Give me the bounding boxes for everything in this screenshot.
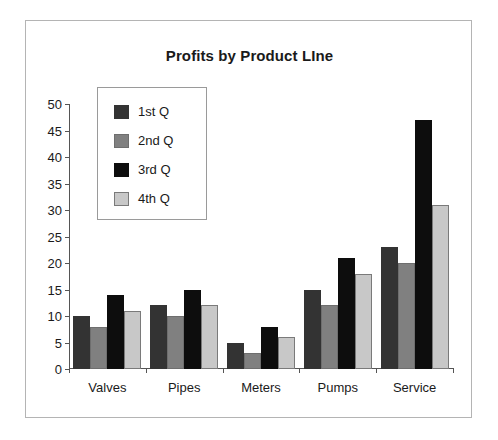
y-tick-label: 15 [48, 282, 62, 297]
bar-group: Service [376, 104, 453, 369]
bar[interactable] [261, 327, 278, 369]
bar[interactable] [167, 316, 184, 369]
bar[interactable] [124, 311, 141, 369]
x-category-label: Pipes [146, 380, 223, 395]
bar-group-bars [376, 104, 453, 369]
x-category-label: Meters [223, 380, 300, 395]
bar[interactable] [227, 343, 244, 370]
legend-swatch-icon [114, 192, 129, 206]
legend-item[interactable]: 1st Q [114, 97, 206, 126]
legend-label: 1st Q [138, 104, 169, 119]
x-category-label: Valves [69, 380, 146, 395]
legend-item[interactable]: 4th Q [114, 184, 206, 213]
legend-item[interactable]: 3rd Q [114, 155, 206, 184]
y-tick-label: 30 [48, 203, 62, 218]
bar[interactable] [321, 305, 338, 369]
y-tick-label: 35 [48, 176, 62, 191]
bar[interactable] [381, 247, 398, 369]
bar[interactable] [201, 305, 218, 369]
bar[interactable] [184, 290, 201, 370]
y-tick-label: 20 [48, 256, 62, 271]
bar-group-bars [299, 104, 376, 369]
x-tick-mark [453, 368, 454, 373]
bar-group: Meters [223, 104, 300, 369]
y-tick-label: 50 [48, 97, 62, 112]
chart-title: Profits by Product LIne [26, 47, 473, 64]
bar[interactable] [338, 258, 355, 369]
legend-swatch-icon [114, 163, 129, 177]
bar[interactable] [304, 290, 321, 370]
bar[interactable] [150, 305, 167, 369]
bar[interactable] [355, 274, 372, 369]
legend-swatch-icon [114, 134, 129, 148]
bar[interactable] [90, 327, 107, 369]
bar[interactable] [73, 316, 90, 369]
x-category-label: Pumps [299, 380, 376, 395]
x-category-label: Service [376, 380, 453, 395]
bar-group: Pumps [299, 104, 376, 369]
y-tick-label: 5 [55, 335, 62, 350]
legend-swatch-icon [114, 105, 129, 119]
legend: 1st Q2nd Q3rd Q4th Q [97, 87, 207, 220]
bar-group-bars [223, 104, 300, 369]
y-tick-label: 45 [48, 123, 62, 138]
bar[interactable] [415, 120, 432, 369]
bar[interactable] [278, 337, 295, 369]
legend-label: 4th Q [138, 191, 170, 206]
bar[interactable] [432, 205, 449, 369]
legend-label: 3rd Q [138, 162, 171, 177]
y-tick-label: 0 [55, 362, 62, 377]
legend-label: 2nd Q [138, 133, 173, 148]
chart-frame: Profits by Product LIne 0510152025303540… [25, 20, 472, 418]
bar[interactable] [398, 263, 415, 369]
y-tick-label: 40 [48, 150, 62, 165]
y-tick-label: 10 [48, 309, 62, 324]
bar[interactable] [244, 353, 261, 369]
y-tick-label: 25 [48, 229, 62, 244]
bar[interactable] [107, 295, 124, 369]
legend-item[interactable]: 2nd Q [114, 126, 206, 155]
